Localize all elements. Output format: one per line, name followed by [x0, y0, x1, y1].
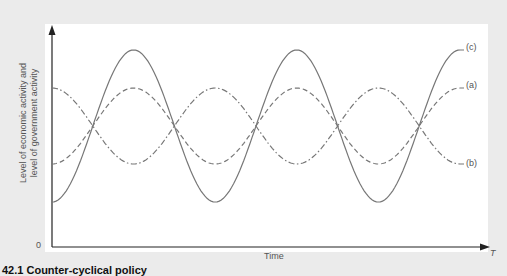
origin-label: 0 [36, 240, 41, 250]
series-label-a: (a) [466, 80, 477, 90]
y-axis-label-line2: level of government activity [29, 38, 40, 208]
series-line-a [52, 88, 464, 164]
figure-caption: 42.1 Counter-cyclical policy [2, 264, 147, 276]
chart-plot [0, 0, 507, 276]
x-axis-end-label: T [490, 248, 496, 258]
series-line-b [52, 88, 464, 164]
y-axis-arrow-icon [49, 25, 56, 35]
series-label-c: (c) [466, 42, 477, 52]
y-axis-label-line1: Level of economic activity and [18, 38, 29, 208]
x-axis-arrow-icon [480, 244, 490, 251]
x-axis-label: Time [264, 251, 284, 261]
y-axis-label: Level of economic activity and level of … [18, 38, 40, 208]
series-label-b: (b) [466, 158, 477, 168]
series-line-c [52, 50, 464, 202]
